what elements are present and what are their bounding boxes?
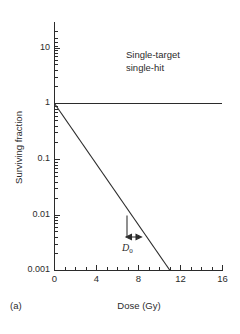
chart-title-line-1: Single-target — [126, 48, 180, 61]
ytick-label-0.01: 0.01 — [9, 210, 50, 220]
x-axis-title: Dose (Gy) — [84, 300, 194, 311]
panel-label: (a) — [10, 300, 22, 311]
d0-annotation-label: D0 — [122, 242, 133, 253]
chart-title-annotation: Single-target single-hit — [126, 48, 180, 74]
d0-label-subscript: 0 — [129, 247, 133, 255]
d0-annotation — [126, 216, 142, 240]
series-survival-curve — [55, 104, 171, 271]
y-minor-ticks — [55, 32, 59, 254]
d0-arrow-head-right — [136, 234, 142, 239]
x-major-ticks — [55, 265, 223, 271]
figure-panel-a: 10 1 0.1 0.01 0.001 0 4 8 12 16 Survivin… — [0, 0, 240, 334]
xtick-label-8: 8 — [128, 274, 149, 284]
xtick-label-16: 16 — [212, 274, 233, 284]
ytick-label-1: 1 — [22, 98, 50, 108]
ytick-label-10: 10 — [22, 43, 50, 53]
chart-title-line-2: single-hit — [126, 61, 180, 74]
y-axis-title: Surviving fraction — [13, 98, 24, 198]
xtick-label-12: 12 — [170, 274, 191, 284]
xtick-label-4: 4 — [86, 274, 107, 284]
xtick-label-0: 0 — [44, 274, 65, 284]
